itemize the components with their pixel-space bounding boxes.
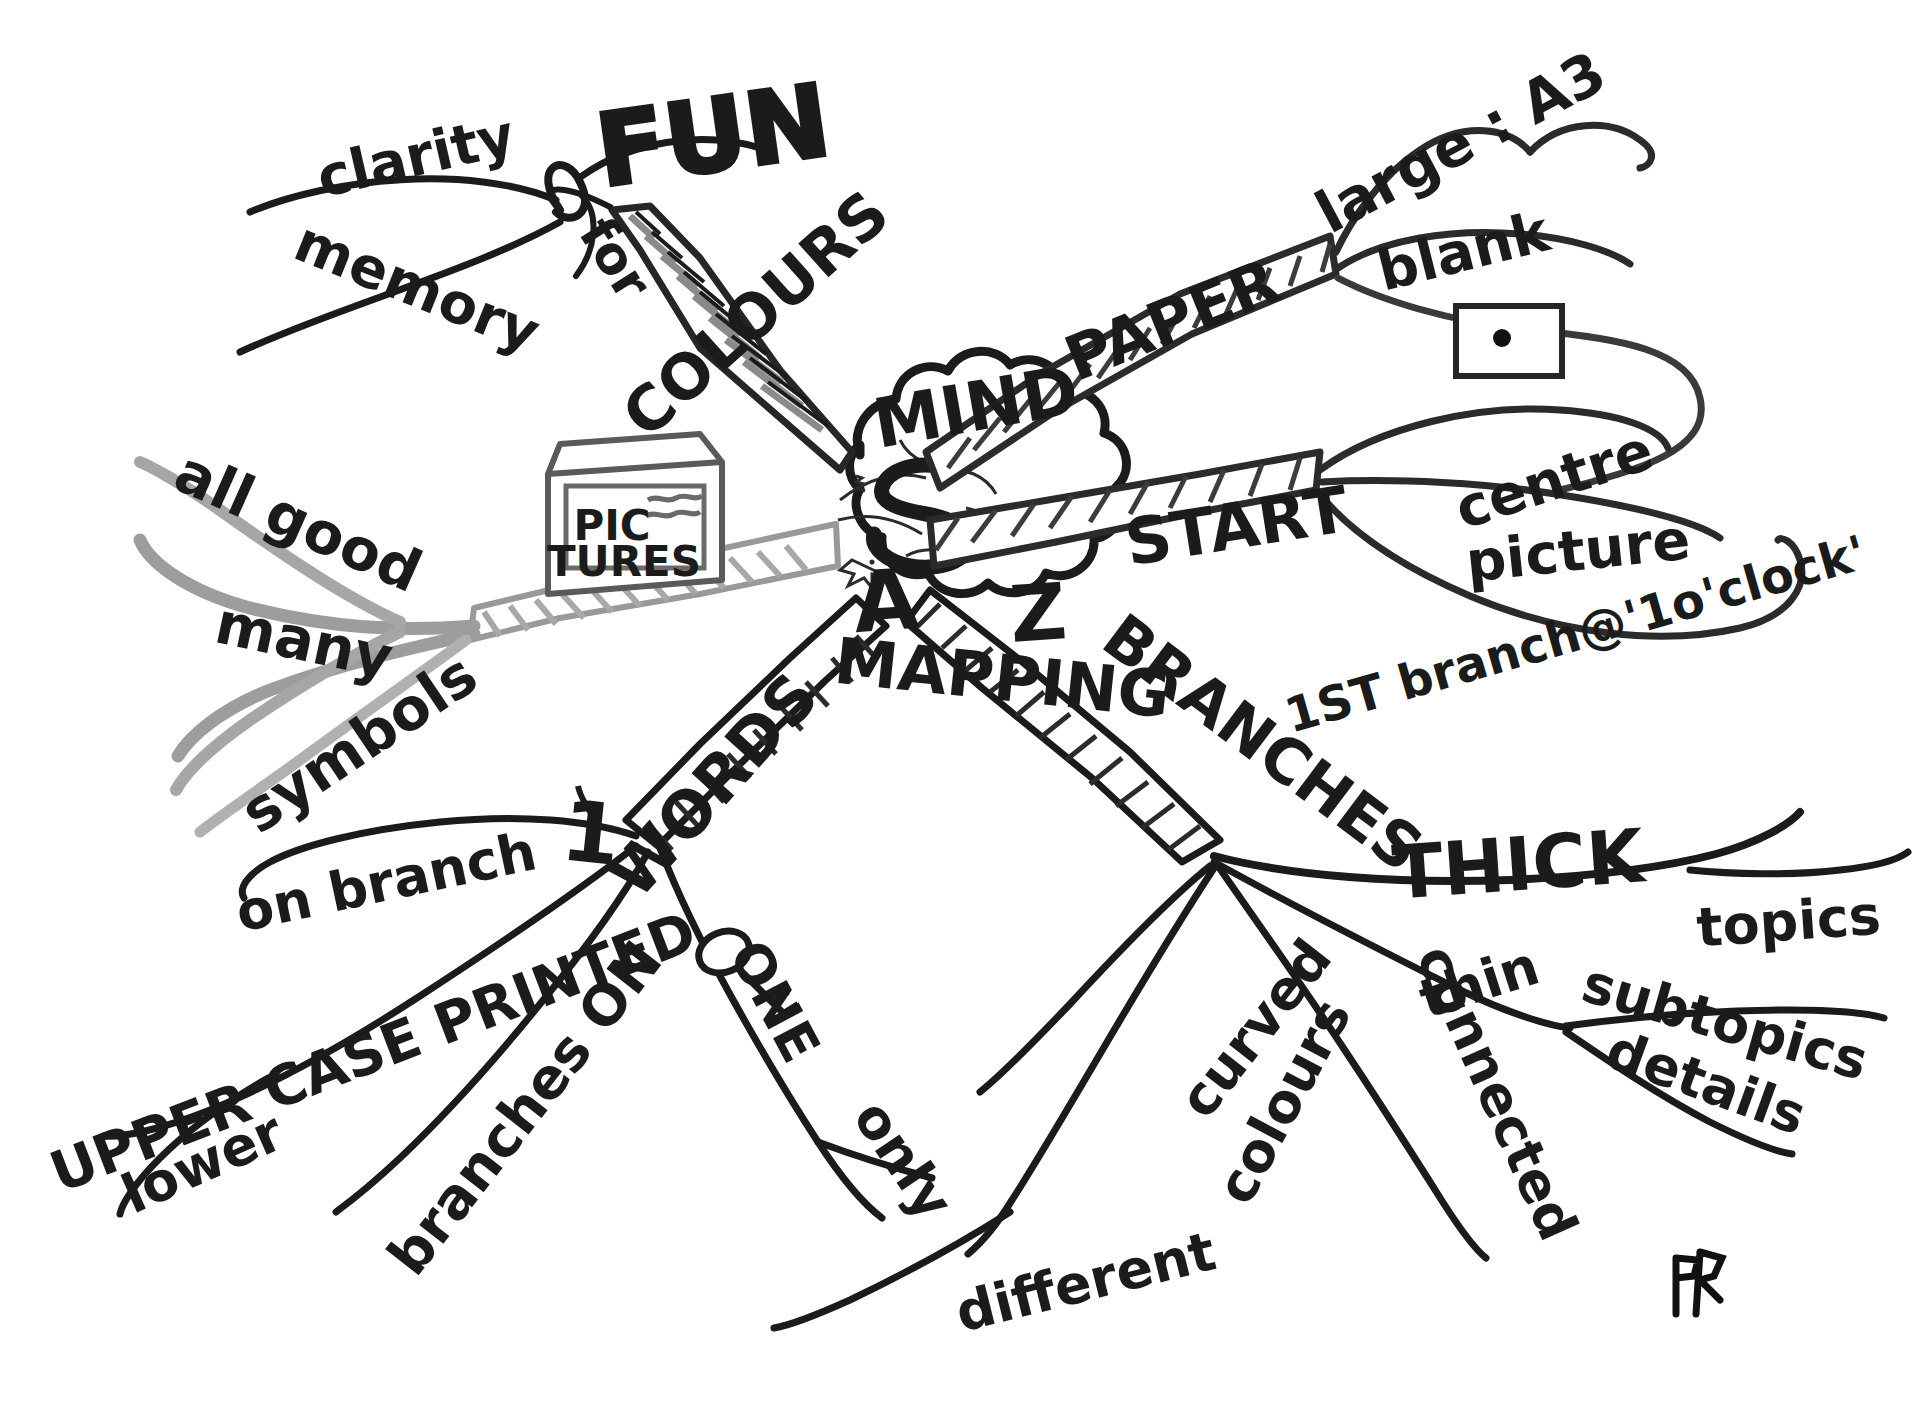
branch-label-branches: BRANCHES bbox=[1090, 600, 1437, 887]
label-large-a3: large : A3 bbox=[1305, 38, 1617, 247]
label-one: ONE bbox=[716, 930, 832, 1073]
label-for: for bbox=[568, 207, 664, 310]
label-blank: blank bbox=[1371, 198, 1557, 304]
label-clarity: clarity bbox=[311, 102, 521, 210]
label-many: many bbox=[210, 589, 399, 693]
label-one-digit: 1 bbox=[557, 781, 625, 885]
mindmap-text-layer: A Z MIND MAPPING COLOURS for clarity mem… bbox=[0, 0, 1932, 1412]
pictures-box-line2: TURES bbox=[547, 537, 701, 586]
label-fun: FUN bbox=[590, 62, 837, 210]
branch-label-start: START bbox=[1120, 472, 1354, 580]
branch-label-words: WORDS bbox=[595, 659, 833, 912]
label-all-good: all good bbox=[165, 437, 432, 606]
label-different: different bbox=[949, 1219, 1221, 1344]
label-topics: topics bbox=[1695, 884, 1883, 960]
center-word-mind: MIND bbox=[867, 350, 1084, 464]
mindmap-canvas: A Z MIND MAPPING COLOURS for clarity mem… bbox=[0, 0, 1932, 1412]
branch-label-paper: PAPER bbox=[1055, 244, 1289, 395]
branch-label-colours: COLOURS bbox=[608, 176, 903, 452]
label-memory: memory bbox=[286, 209, 549, 366]
label-only: only bbox=[841, 1088, 966, 1230]
label-thick: THICK bbox=[1390, 812, 1650, 916]
